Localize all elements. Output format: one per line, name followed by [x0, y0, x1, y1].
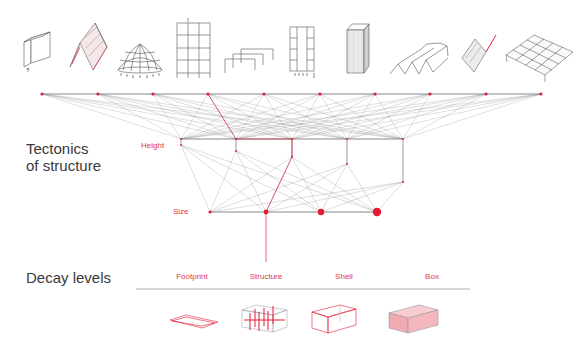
- network-lines: [42, 94, 541, 212]
- height-node-4: [346, 138, 348, 140]
- dome-icon: [118, 44, 162, 78]
- height-node-2: [235, 138, 237, 140]
- footprint-icon: [170, 315, 218, 328]
- height-sub-node-2: [235, 150, 237, 152]
- top-node-2: [96, 92, 99, 95]
- height-sub-node-1: [180, 144, 182, 146]
- height-node-3: [291, 138, 293, 140]
- size-node-3: [318, 209, 324, 215]
- portal-frames-icon: [225, 49, 273, 73]
- decay-label-footprint: Footprint: [157, 272, 227, 281]
- height-sub-node-5: [402, 181, 404, 183]
- decay-label-structure: Structure: [231, 272, 301, 281]
- top-node-4: [206, 92, 209, 95]
- diagram-canvas: Tectonics of structure Height Size Decay…: [0, 0, 578, 346]
- size-axis-label: Size: [173, 207, 189, 216]
- tectonics-title: Tectonics of structure: [26, 140, 101, 174]
- height-node-1: [180, 138, 182, 140]
- size-node-1: [208, 210, 211, 213]
- top-node-10: [539, 92, 542, 95]
- inclined-plate-icon: [462, 35, 496, 72]
- decay-label-shell: Shell: [309, 272, 379, 281]
- space-frame-icon: [506, 35, 573, 82]
- top-node-6: [318, 92, 321, 95]
- folded-roof-icon: [390, 43, 448, 74]
- folded-plate-icon: [70, 23, 107, 70]
- top-node-5: [262, 92, 265, 95]
- shell-icon: [312, 305, 356, 333]
- top-node-7: [373, 92, 376, 95]
- box-icon: [389, 305, 438, 333]
- height-node-5: [402, 138, 404, 140]
- core-tube-frame-icon: [290, 27, 314, 78]
- size-node-4: [373, 208, 381, 216]
- structure-icon: [242, 305, 287, 332]
- tectonics-title-line1: Tectonics: [26, 140, 101, 157]
- height-axis-label: Height: [141, 141, 164, 150]
- wall-slab-icon: [24, 32, 50, 72]
- top-node-3: [151, 92, 154, 95]
- frame-grid-icon: [177, 18, 210, 78]
- height-sub-node-3: [291, 156, 293, 158]
- shell-tube-icon: [347, 24, 369, 73]
- top-node-9: [484, 92, 487, 95]
- structure-icons-row: [24, 18, 573, 82]
- height-sub-node-4: [346, 163, 348, 165]
- size-node-2: [264, 210, 269, 215]
- top-node-8: [428, 92, 431, 95]
- tectonics-title-line2: of structure: [26, 157, 101, 174]
- decay-label-box: Box: [397, 272, 467, 281]
- top-node-1: [40, 92, 43, 95]
- decay-levels-title: Decay levels: [26, 269, 111, 286]
